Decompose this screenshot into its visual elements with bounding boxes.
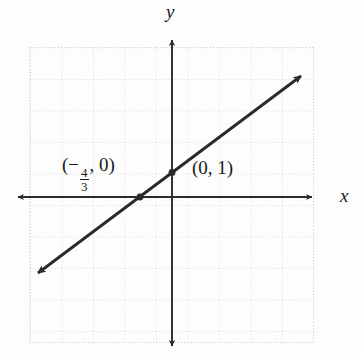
x-intercept-fraction: 43 (80, 166, 89, 193)
x-intercept-label: (−43, 0) (62, 155, 115, 193)
y-intercept-label: (0, 1) (192, 158, 233, 177)
fraction-denominator: 3 (80, 179, 89, 193)
y-intercept-dot (169, 169, 176, 176)
x-intercept-dot (137, 194, 144, 201)
y-axis-label: y (166, 2, 174, 21)
x-intercept-close-paren: ) (109, 154, 115, 175)
x-intercept-minus-sign: − (68, 154, 79, 175)
coordinate-plane-svg (0, 0, 361, 357)
x-intercept-second-value: 0 (99, 154, 109, 175)
x-axis-label: x (340, 186, 348, 205)
graph-figure: y x (−43, 0) (0, 1) (0, 0, 361, 357)
fraction-numerator: 4 (80, 166, 89, 179)
x-intercept-comma: , (90, 154, 95, 175)
